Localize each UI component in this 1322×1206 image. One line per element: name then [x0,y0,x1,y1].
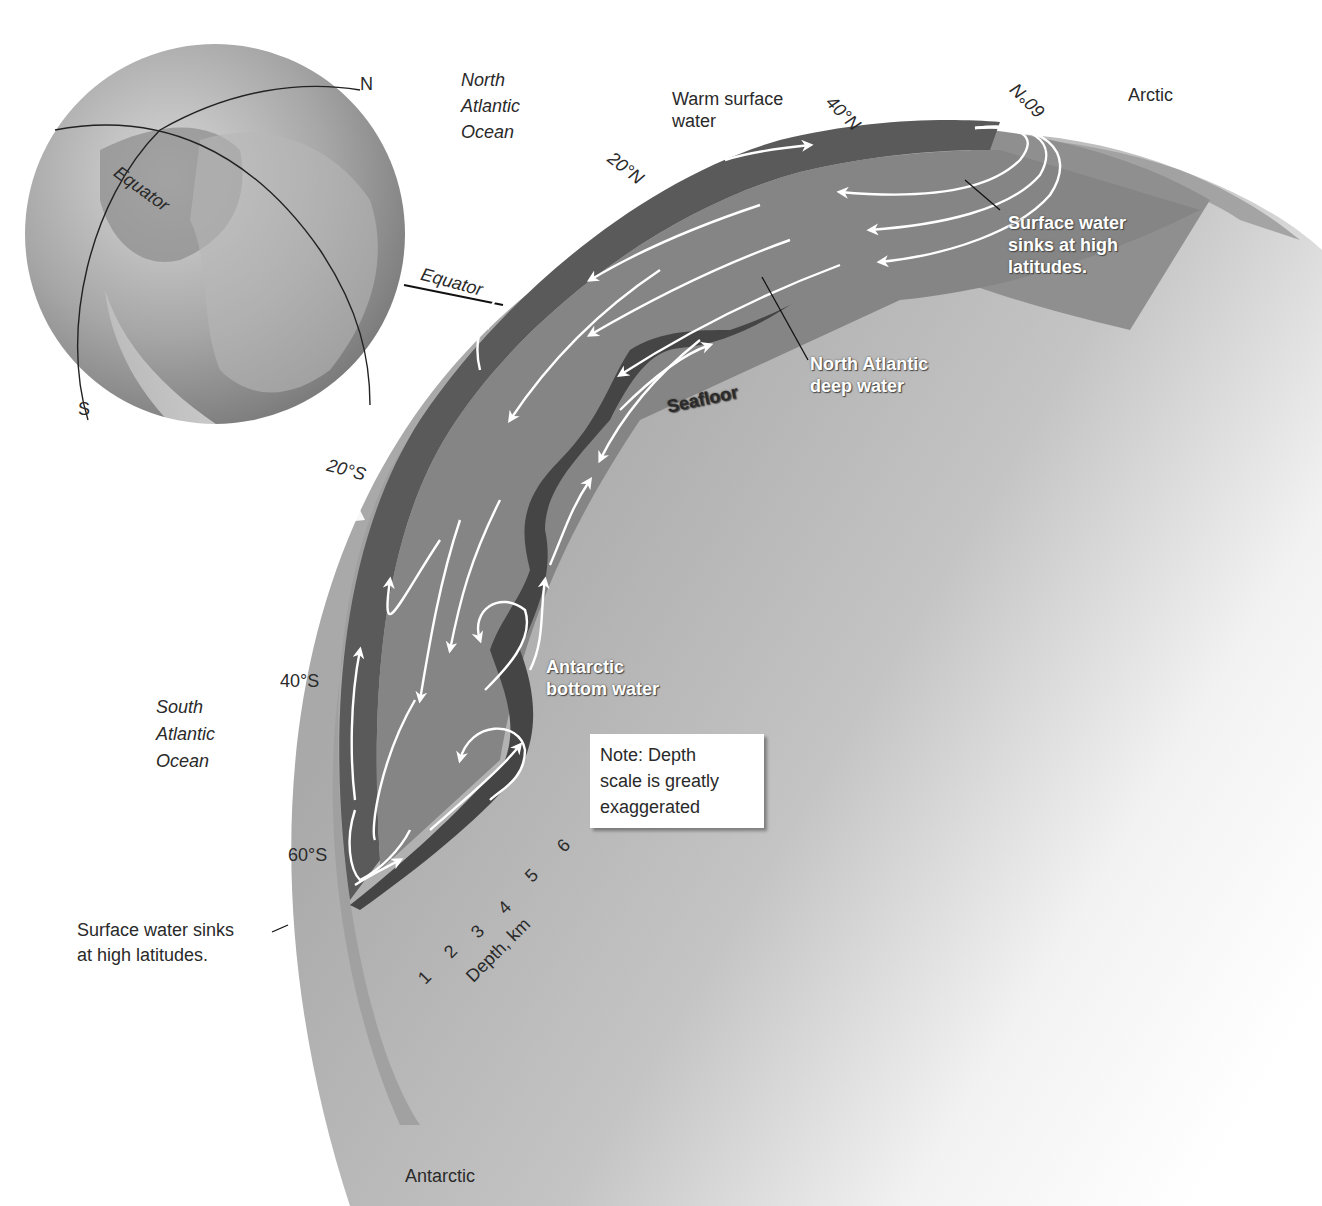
label-line: Surface water sinks [77,918,234,943]
region-arctic: Arctic [1128,84,1173,106]
label-line: Warm surface [672,88,783,110]
label-surface-water-sinks-north: Surface water sinks at high latitudes. [1008,212,1126,278]
region-line: Ocean [156,748,215,775]
globe [25,44,405,530]
label-line: North Atlantic [810,353,928,375]
label-north-atlantic-deep-water: North Atlantic deep water [810,353,928,397]
label-warm-surface-water: Warm surface water [672,88,783,132]
globe-north-label: N [360,73,373,95]
region-line: Atlantic [156,721,215,748]
label-line: latitudes. [1008,256,1126,278]
label-surface-water-sinks-south: Surface water sinks at high latitudes. [77,918,234,968]
note-line: Note: Depth [600,742,754,768]
label-antarctic-bottom-water: Antarctic bottom water [546,656,659,700]
region-line: South [156,694,215,721]
region-north-atlantic: North Atlantic Ocean [461,67,520,145]
label-line: at high latitudes. [77,943,234,968]
region-south-atlantic: South Atlantic Ocean [156,694,215,775]
label-line: bottom water [546,678,659,700]
diagram-graphic [0,0,1322,1206]
region-line: Atlantic [461,93,520,119]
globe-south-label: S [78,398,90,420]
latitude-60s: 60°S [288,844,327,866]
label-line: Antarctic [546,656,659,678]
region-antarctic: Antarctic [405,1165,475,1187]
note-line: scale is greatly [600,768,754,794]
diagram-canvas: N S Equator North Atlantic Ocean South A… [0,0,1322,1206]
label-line: sinks at high [1008,234,1126,256]
label-line: deep water [810,375,928,397]
label-line: Surface water [1008,212,1126,234]
region-line: Ocean [461,119,520,145]
region-line: North [461,67,520,93]
note-box: Note: Depth scale is greatly exaggerated [590,734,764,828]
latitude-40s: 40°S [280,670,319,692]
label-line: water [672,110,783,132]
note-line: exaggerated [600,794,754,820]
